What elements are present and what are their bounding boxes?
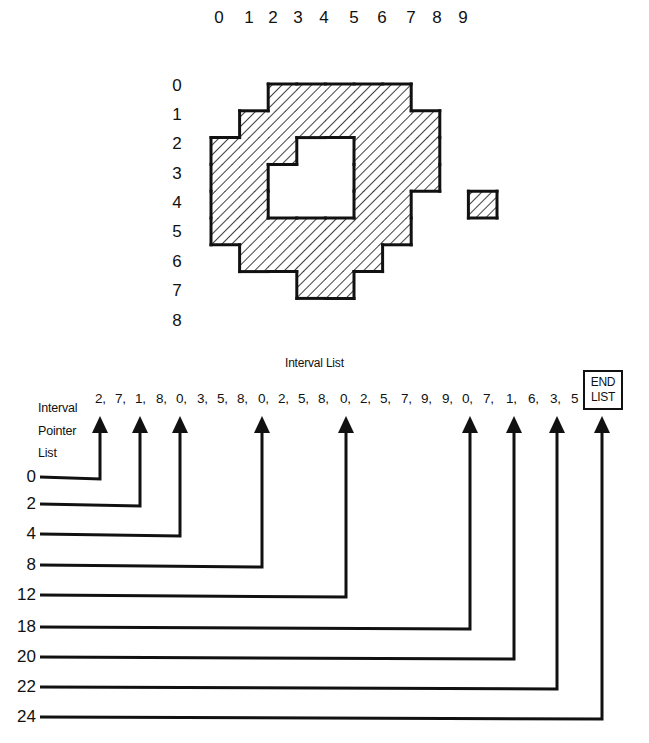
column-label: 4	[314, 8, 334, 28]
row-label: 6	[167, 252, 187, 272]
pointer-label: 4	[6, 524, 36, 544]
arrow-head-icon	[254, 416, 270, 433]
interval-value: 0,	[340, 391, 351, 406]
column-label: 2	[263, 8, 283, 28]
arrow-head-icon	[92, 416, 108, 433]
interval-value: 6,	[528, 391, 539, 406]
interval-value: 0,	[258, 391, 269, 406]
end-list-marker: END LIST	[583, 370, 623, 410]
arrow-head-icon	[594, 416, 610, 433]
arrow-head-icon	[549, 416, 565, 433]
interval-value: 3,	[550, 391, 561, 406]
interval-value: 8,	[318, 391, 329, 406]
pointer-arrow-line	[40, 431, 262, 567]
column-label: 0	[209, 8, 229, 28]
column-label: 3	[288, 8, 308, 28]
interval-value: 2,	[278, 391, 289, 406]
arrow-head-icon	[462, 416, 478, 433]
interval-value: 5	[571, 391, 578, 406]
interval-value: 2,	[360, 391, 371, 406]
end-list-line1: END	[591, 375, 615, 390]
column-label: 8	[427, 8, 447, 28]
pointer-arrow-line	[40, 431, 346, 597]
pointer-label: 12	[6, 585, 36, 605]
interval-value: 1,	[135, 391, 146, 406]
interval-value: 0,	[462, 391, 473, 406]
pointer-arrow-line	[40, 431, 514, 659]
interval-value: 8,	[156, 391, 167, 406]
column-label: 6	[372, 8, 392, 28]
pointer-arrow-line	[40, 431, 557, 689]
interval-list-title: Interval List	[285, 356, 344, 370]
interval-value: 5,	[217, 391, 228, 406]
arrow-head-icon	[172, 416, 188, 433]
row-label: 2	[167, 134, 187, 154]
column-label: 9	[453, 8, 473, 28]
row-label: 3	[167, 164, 187, 184]
interval-value: 0,	[176, 391, 187, 406]
row-label: 4	[167, 193, 187, 213]
interval-value: 7,	[401, 391, 412, 406]
pointer-arrow-line	[40, 431, 470, 629]
column-label: 5	[344, 8, 364, 28]
pointer-label: 8	[6, 555, 36, 575]
pointer-label: 22	[6, 677, 36, 697]
pointer-label: 0	[6, 467, 36, 487]
pointer-label: 24	[6, 707, 36, 727]
arrow-head-icon	[338, 416, 354, 433]
pointer-list-label-line1: Interval	[38, 398, 77, 418]
interval-value: 9,	[442, 391, 453, 406]
pointer-label: 18	[6, 617, 36, 637]
column-label: 7	[401, 8, 421, 28]
pointer-list-label-line3: List	[38, 443, 57, 463]
pointer-arrow-line	[40, 431, 602, 719]
interval-value: 7,	[483, 391, 494, 406]
interval-value: 2,	[95, 391, 106, 406]
row-label: 7	[167, 281, 187, 301]
arrow-head-icon	[132, 416, 148, 433]
row-label: 5	[167, 222, 187, 242]
interval-value: 3,	[197, 391, 208, 406]
raster-shape-grid	[0, 0, 649, 743]
pointer-label: 20	[6, 647, 36, 667]
column-label: 1	[239, 8, 259, 28]
pointer-arrows	[40, 416, 610, 719]
pointer-label: 2	[6, 494, 36, 514]
arrow-head-icon	[506, 416, 522, 433]
row-label: 0	[167, 76, 187, 96]
interval-value: 9,	[421, 391, 432, 406]
end-list-line2: LIST	[591, 390, 615, 405]
interval-value: 1,	[506, 391, 517, 406]
row-label: 1	[167, 105, 187, 125]
interval-value: 7,	[115, 391, 126, 406]
interval-value: 8,	[237, 391, 248, 406]
interval-value: 5,	[380, 391, 391, 406]
interval-value: 5,	[298, 391, 309, 406]
pointer-list-label-line2: Pointer	[38, 421, 76, 441]
row-label: 8	[167, 311, 187, 331]
pointer-arrow-line	[40, 431, 180, 536]
interval-list-diagram: 0123456789 012345678 Interval List Inter…	[0, 0, 649, 743]
